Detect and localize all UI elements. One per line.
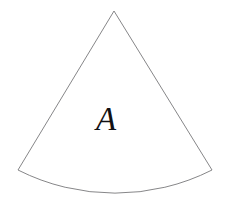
circular-sector-shape — [18, 11, 212, 193]
sector-figure: A — [0, 0, 230, 205]
sector-canvas — [0, 0, 230, 205]
